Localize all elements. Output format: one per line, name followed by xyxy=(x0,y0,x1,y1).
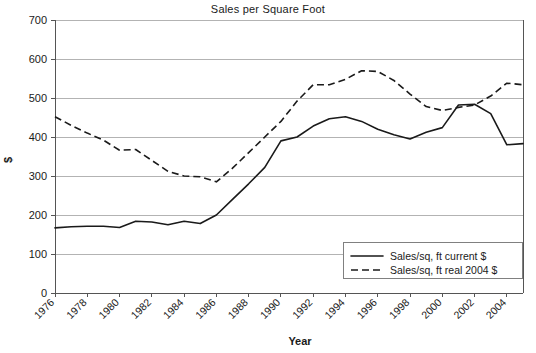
x-tick-label: 1978 xyxy=(64,296,89,321)
x-tick-label: 1976 xyxy=(31,296,56,321)
y-tick-label: 700 xyxy=(29,14,47,26)
x-axis-ticks: 1976197819801982198419861988199019921994… xyxy=(31,293,508,321)
x-tick-label: 1980 xyxy=(96,296,121,321)
data-series xyxy=(55,71,523,228)
y-tick-label: 600 xyxy=(29,53,47,65)
chart-plot-area: 0100200300400500600700 19761978198019821… xyxy=(0,0,536,353)
y-axis-ticks: 0100200300400500600700 xyxy=(29,14,55,299)
series-line-1 xyxy=(55,104,523,228)
legend-label-real: Sales/sq, ft real 2004 $ xyxy=(390,264,498,276)
y-tick-label: 400 xyxy=(29,131,47,143)
x-axis-label: Year xyxy=(288,335,312,347)
x-tick-label: 1992 xyxy=(290,296,315,321)
series-line-2 xyxy=(55,71,523,182)
y-tick-label: 300 xyxy=(29,170,47,182)
y-tick-label: 100 xyxy=(29,248,47,260)
x-tick-label: 1996 xyxy=(354,296,379,321)
x-tick-label: 1988 xyxy=(225,296,250,321)
chart-legend[interactable]: Sales/sq, ft current $ Sales/sq, ft real… xyxy=(344,243,523,279)
x-tick-label: 1994 xyxy=(322,296,347,321)
y-axis-label: $ xyxy=(2,157,14,163)
gridlines xyxy=(55,20,523,254)
x-tick-label: 2002 xyxy=(451,296,476,321)
y-tick-label: 200 xyxy=(29,209,47,221)
legend-label-current: Sales/sq, ft current $ xyxy=(390,250,486,262)
chart-container: Sales per Square Foot 010020030040050060… xyxy=(0,0,536,353)
x-tick-label: 1984 xyxy=(161,296,186,321)
x-tick-label: 1998 xyxy=(386,296,411,321)
x-tick-label: 2004 xyxy=(483,296,508,321)
x-tick-label: 1982 xyxy=(128,296,153,321)
x-tick-label: 2000 xyxy=(419,296,444,321)
x-tick-label: 1986 xyxy=(193,296,218,321)
x-tick-label: 1990 xyxy=(257,296,282,321)
y-tick-label: 500 xyxy=(29,92,47,104)
